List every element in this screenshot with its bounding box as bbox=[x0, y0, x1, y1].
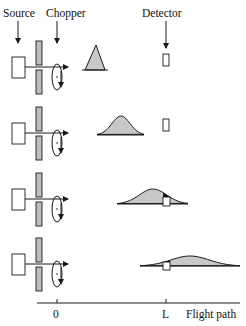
source-box bbox=[12, 189, 25, 210]
source-box bbox=[12, 57, 25, 78]
detector-box bbox=[163, 262, 170, 270]
axis-label-origin: 0 bbox=[53, 308, 59, 320]
slit-plate-top bbox=[36, 238, 42, 262]
detector-label: Detector bbox=[142, 7, 182, 19]
neutron-pulse bbox=[140, 256, 240, 266]
axis-title: Flight path bbox=[186, 308, 236, 321]
chopper-axle bbox=[56, 273, 58, 275]
source-box bbox=[12, 123, 25, 144]
detector-box bbox=[163, 197, 170, 206]
axis-label-detector: L bbox=[162, 308, 169, 320]
neutron-pulse bbox=[85, 45, 105, 70]
slit-plate-bottom bbox=[36, 267, 42, 291]
chopper-axle bbox=[56, 142, 58, 144]
detector-box bbox=[163, 54, 169, 66]
neutron-pulse bbox=[117, 189, 188, 204]
detector-box bbox=[163, 119, 169, 131]
slit-plate-top bbox=[36, 173, 42, 197]
chopper-axle bbox=[56, 208, 58, 210]
tof-chopper-diagram: Source Chopper Detector 0 L Flight path bbox=[0, 0, 246, 326]
slit-plate-bottom bbox=[36, 136, 42, 160]
time-row-2 bbox=[12, 107, 169, 160]
slit-plate-top bbox=[36, 41, 42, 65]
time-row-4 bbox=[12, 238, 240, 291]
source-box bbox=[12, 254, 25, 275]
neutron-pulse bbox=[97, 116, 144, 134]
source-label: Source bbox=[3, 7, 35, 19]
slit-plate-bottom bbox=[36, 70, 42, 94]
slit-plate-bottom bbox=[36, 202, 42, 226]
time-row-1 bbox=[12, 41, 169, 94]
flight-path-axis: 0 L Flight path bbox=[37, 299, 240, 321]
chopper-axle bbox=[56, 76, 58, 78]
chopper-label: Chopper bbox=[46, 7, 86, 20]
time-row-3 bbox=[12, 173, 188, 226]
diagram-canvas: Source Chopper Detector 0 L Flight path bbox=[0, 0, 246, 326]
slit-plate-top bbox=[36, 107, 42, 131]
time-sequence-rows bbox=[12, 41, 240, 291]
